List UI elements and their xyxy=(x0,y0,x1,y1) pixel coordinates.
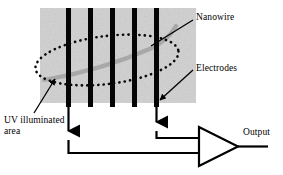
wire-right-rail xyxy=(157,131,200,138)
circuit-wiring xyxy=(69,103,200,153)
electrode-3 xyxy=(110,8,115,107)
electrode-1 xyxy=(66,8,71,107)
electrode-4 xyxy=(132,8,137,107)
label-uv-illuminated-area: UV illuminated area xyxy=(4,115,76,137)
nanowire-photodetector-diagram xyxy=(0,0,283,175)
electrode-5 xyxy=(154,8,159,107)
electrode-2 xyxy=(88,8,93,107)
wire-left-rail xyxy=(69,140,200,153)
label-nanowire: Nanowire xyxy=(196,12,234,23)
label-electrodes: Electrodes xyxy=(196,63,237,74)
label-output: Output xyxy=(243,127,270,138)
